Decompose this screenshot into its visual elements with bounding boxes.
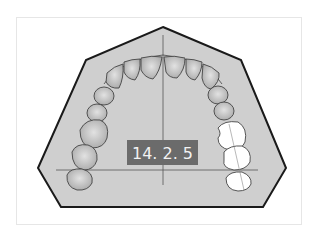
tooth-right-first-molar xyxy=(80,120,108,148)
tooth-left-third-molar-highlighted xyxy=(226,172,251,191)
date-label: 14. 2. 5 xyxy=(127,140,198,165)
tooth-right-third-molar xyxy=(67,169,92,190)
dental-arch-diagram: 14. 2. 5 xyxy=(0,0,317,229)
tooth-right-second-molar xyxy=(72,145,97,170)
tooth-left-second-premolar xyxy=(214,102,234,120)
tooth-left-first-premolar xyxy=(208,86,228,104)
tooth-right-first-premolar xyxy=(94,87,114,105)
date-label-text: 14. 2. 5 xyxy=(132,144,193,163)
tooth-left-second-molar-highlighted xyxy=(224,146,251,170)
